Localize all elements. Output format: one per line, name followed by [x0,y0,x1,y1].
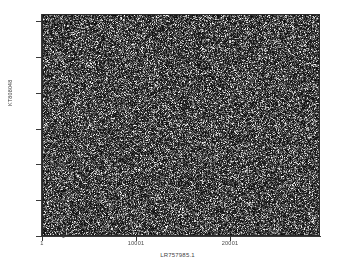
y-tick-label: 25001 [49,54,65,60]
y-tick-mark [36,93,42,94]
y-tick-label: 1 [62,233,65,239]
y-axis-title: KT808048 [7,96,13,106]
y-tick-label: 20001 [49,90,65,96]
x-tick-label: 10001 [128,240,144,246]
y-tick-label: 10001 [49,161,65,167]
y-tick-mark [36,21,42,22]
dotplot-figure: 150011000115001200012500130001 110001200… [0,0,355,268]
x-axis-title: LR757985.1 [0,252,355,258]
x-axis-line [41,236,321,237]
y-tick-mark [36,129,42,130]
x-tick-label: 20001 [222,240,238,246]
y-tick-label: 5001 [52,197,65,203]
y-axis-line [41,14,42,237]
y-tick-mark [36,164,42,165]
y-tick-mark [36,200,42,201]
y-tick-mark [36,57,42,58]
dotplot-canvas [42,14,320,236]
x-tick-label: 1 [40,240,43,246]
y-tick-label: 15001 [49,126,65,132]
y-tick-label: 30001 [49,18,65,24]
plot-area [42,14,320,236]
